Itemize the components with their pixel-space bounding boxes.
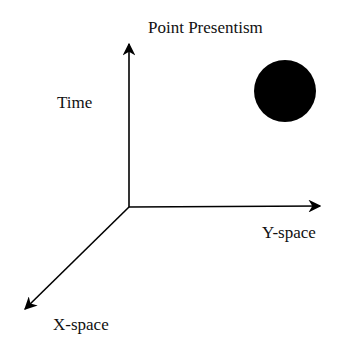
diagram-canvas: Point Presentism Time Y-space X-space: [0, 0, 348, 345]
diagram-title: Point Presentism: [148, 19, 263, 36]
y-space-axis: [129, 206, 320, 207]
time-axis-label: Time: [57, 94, 92, 111]
present-point: [254, 60, 316, 122]
x-space-axis-label: X-space: [53, 316, 109, 333]
y-space-axis-label: Y-space: [262, 224, 316, 241]
axes-graphic: [0, 0, 348, 345]
x-space-axis: [25, 207, 129, 309]
